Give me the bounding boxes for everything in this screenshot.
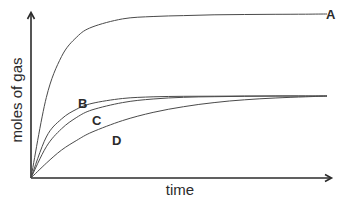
x-axis-label: time	[166, 181, 194, 198]
y-axis-label: moles of gas	[8, 57, 25, 142]
curve-label-d: D	[112, 133, 121, 148]
curve-d	[31, 96, 327, 178]
curve-b	[31, 96, 327, 178]
curve-label-c: C	[92, 113, 102, 128]
curve-c	[31, 96, 327, 178]
reaction-gas-chart: A B C D time moles of gas	[0, 0, 343, 206]
curve-label-a: A	[326, 7, 336, 22]
curve-label-b: B	[78, 96, 87, 111]
